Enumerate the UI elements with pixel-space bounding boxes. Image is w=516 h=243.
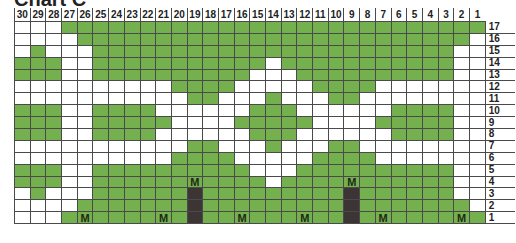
main-color-cell bbox=[77, 152, 93, 164]
contrast-color-cell bbox=[46, 129, 62, 141]
main-color-cell bbox=[109, 81, 125, 93]
contrast-color-cell bbox=[203, 45, 219, 57]
main-color-cell bbox=[313, 117, 329, 129]
contrast-color-cell bbox=[328, 57, 344, 69]
chart-row: MM4 bbox=[15, 176, 515, 188]
main-color-cell bbox=[171, 93, 187, 105]
contrast-color-cell bbox=[156, 57, 172, 69]
contrast-color-cell bbox=[281, 200, 297, 212]
no-stitch-cell bbox=[344, 200, 360, 212]
main-color-cell bbox=[344, 105, 360, 117]
main-color-cell bbox=[46, 22, 62, 34]
contrast-color-cell bbox=[109, 105, 125, 117]
contrast-color-cell bbox=[297, 164, 313, 176]
main-color-cell bbox=[469, 176, 485, 188]
contrast-color-cell bbox=[391, 212, 407, 224]
row-label: 7 bbox=[485, 140, 515, 152]
chart-row: 12 bbox=[15, 81, 515, 93]
contrast-color-cell bbox=[156, 117, 172, 129]
contrast-color-cell bbox=[360, 81, 376, 93]
contrast-color-cell bbox=[156, 45, 172, 57]
contrast-color-cell bbox=[313, 57, 329, 69]
contrast-color-cell bbox=[187, 152, 203, 164]
main-color-cell bbox=[391, 152, 407, 164]
main-color-cell bbox=[407, 152, 423, 164]
main-color-cell bbox=[15, 45, 31, 57]
contrast-color-cell bbox=[313, 176, 329, 188]
contrast-color-cell bbox=[171, 212, 187, 224]
chart-row: 17 bbox=[15, 22, 515, 34]
contrast-color-cell bbox=[266, 33, 282, 45]
main-color-cell bbox=[156, 140, 172, 152]
contrast-color-cell bbox=[109, 33, 125, 45]
contrast-color-cell bbox=[171, 200, 187, 212]
main-color-cell bbox=[62, 45, 78, 57]
main-color-cell bbox=[140, 81, 156, 93]
contrast-color-cell bbox=[109, 164, 125, 176]
main-color-cell bbox=[266, 176, 282, 188]
contrast-color-cell bbox=[187, 69, 203, 81]
contrast-color-cell bbox=[140, 200, 156, 212]
contrast-color-cell bbox=[297, 176, 313, 188]
main-color-cell bbox=[77, 57, 93, 69]
main-color-cell bbox=[62, 81, 78, 93]
main-color-cell bbox=[313, 93, 329, 105]
contrast-color-cell bbox=[187, 57, 203, 69]
contrast-color-cell bbox=[218, 33, 234, 45]
main-color-cell bbox=[281, 81, 297, 93]
chart-row: 6 bbox=[15, 152, 515, 164]
main-color-cell bbox=[297, 152, 313, 164]
main-color-cell bbox=[407, 81, 423, 93]
contrast-color-cell bbox=[46, 176, 62, 188]
main-color-cell bbox=[328, 117, 344, 129]
column-label: 30 bbox=[15, 8, 31, 22]
contrast-color-cell bbox=[30, 188, 46, 200]
contrast-color-cell bbox=[266, 22, 282, 34]
main-color-cell bbox=[407, 140, 423, 152]
contrast-color-cell bbox=[313, 152, 329, 164]
contrast-color-cell bbox=[422, 200, 438, 212]
contrast-color-cell bbox=[218, 188, 234, 200]
main-color-cell bbox=[46, 33, 62, 45]
main-color-cell bbox=[77, 140, 93, 152]
chart-row: 16 bbox=[15, 33, 515, 45]
contrast-color-cell bbox=[281, 22, 297, 34]
main-color-cell bbox=[62, 188, 78, 200]
contrast-color-cell bbox=[407, 117, 423, 129]
contrast-color-cell bbox=[218, 212, 234, 224]
make-one-cell: M bbox=[234, 212, 250, 224]
contrast-color-cell bbox=[30, 45, 46, 57]
contrast-color-cell bbox=[15, 69, 31, 81]
main-color-cell bbox=[469, 117, 485, 129]
contrast-color-cell bbox=[218, 81, 234, 93]
contrast-color-cell bbox=[171, 176, 187, 188]
contrast-color-cell bbox=[438, 117, 454, 129]
contrast-color-cell bbox=[297, 33, 313, 45]
contrast-color-cell bbox=[391, 22, 407, 34]
main-color-cell bbox=[297, 129, 313, 141]
contrast-color-cell bbox=[438, 129, 454, 141]
contrast-color-cell bbox=[297, 22, 313, 34]
main-color-cell bbox=[234, 140, 250, 152]
main-color-cell bbox=[156, 129, 172, 141]
contrast-color-cell bbox=[203, 164, 219, 176]
contrast-color-cell bbox=[438, 105, 454, 117]
main-color-cell bbox=[109, 93, 125, 105]
contrast-color-cell bbox=[328, 22, 344, 34]
main-color-cell bbox=[281, 69, 297, 81]
column-label: 6 bbox=[391, 8, 407, 22]
main-color-cell bbox=[187, 129, 203, 141]
main-color-cell bbox=[360, 93, 376, 105]
contrast-color-cell bbox=[375, 176, 391, 188]
column-label: 24 bbox=[109, 8, 125, 22]
contrast-color-cell bbox=[360, 45, 376, 57]
contrast-color-cell bbox=[62, 212, 78, 224]
main-color-cell bbox=[454, 129, 470, 141]
main-color-cell bbox=[30, 212, 46, 224]
main-color-cell bbox=[250, 93, 266, 105]
chart-row: 10 bbox=[15, 105, 515, 117]
contrast-color-cell bbox=[360, 164, 376, 176]
main-color-cell bbox=[313, 129, 329, 141]
contrast-color-cell bbox=[203, 57, 219, 69]
column-label: 23 bbox=[124, 8, 140, 22]
